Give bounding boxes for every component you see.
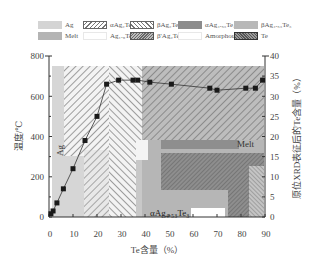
region-amorphous-white: [136, 140, 148, 160]
x-tick-20: 20: [94, 229, 104, 239]
x-tick-80: 80: [238, 229, 248, 239]
y-left-axis-title: 温度/℃: [13, 121, 24, 152]
data-point-marker: [54, 200, 59, 205]
y-right-tick-10: 10: [270, 172, 280, 182]
data-point-marker: [135, 78, 140, 83]
data-point-marker: [95, 114, 100, 119]
right-axis-labels: 0 5 10 15 20 25 30 35 40: [270, 51, 280, 222]
data-point-marker: [147, 80, 152, 85]
data-point-marker: [51, 208, 56, 213]
y-right-tick-35: 35: [270, 71, 280, 81]
x-tick-40: 40: [142, 229, 152, 239]
x-tick-0: 0: [48, 229, 53, 239]
y-right-tick-0: 0: [270, 212, 275, 222]
data-point-marker: [71, 166, 76, 171]
data-point-marker: [260, 78, 265, 83]
data-point-marker: [169, 82, 174, 87]
y-left-tick-200: 200: [31, 172, 45, 182]
data-point-marker: [131, 78, 136, 83]
region-ag19te-white: [191, 208, 225, 217]
y-right-tick-25: 25: [270, 112, 280, 122]
region-melt-band: [161, 140, 239, 149]
y-left-tick-600: 600: [31, 92, 45, 102]
data-point-marker: [215, 88, 220, 93]
x-axis-title: Te含量（%）: [131, 244, 183, 255]
y-right-tick-5: 5: [270, 192, 275, 202]
x-tick-70: 70: [214, 229, 224, 239]
data-point-marker: [253, 86, 258, 91]
y-right-tick-40: 40: [270, 51, 280, 61]
data-point-marker: [104, 82, 109, 87]
phase-diagram-chart: 0 200 400 600 800 温度/℃ 0 5 10 15 20 25 3…: [0, 0, 313, 274]
region-left-gap: [136, 160, 142, 217]
x-tick-90: 90: [262, 229, 272, 239]
data-point-marker: [207, 86, 212, 91]
data-point-marker: [83, 138, 88, 143]
y-right-tick-30: 30: [270, 92, 280, 102]
y-right-tick-15: 15: [270, 152, 280, 162]
annotation-melt: Melt: [237, 139, 254, 149]
region-te: [249, 166, 264, 217]
region-alpha-ag2te-lower: [84, 150, 109, 217]
annotation-ag: Ag: [55, 145, 65, 156]
x-tick-60: 60: [190, 229, 200, 239]
y-left-tick-0: 0: [40, 212, 45, 222]
y-left-tick-800: 800: [31, 51, 45, 61]
region-dark-lower: [228, 190, 249, 217]
region-melt-hatch: [142, 66, 264, 140]
bottom-axis-labels: 0 10 20 30 40 50 60 70 80 90: [48, 229, 271, 239]
y-right-axis-title: 原位XRD表征后的Te含量（%）: [291, 73, 302, 198]
x-tick-10: 10: [70, 229, 80, 239]
data-point-marker: [61, 186, 66, 191]
x-tick-30: 30: [118, 229, 128, 239]
data-point-marker: [116, 78, 121, 83]
x-tick-50: 50: [166, 229, 176, 239]
y-right-tick-20: 20: [270, 132, 280, 142]
annotation-alpha-ag453te3: αAg₄.₅₃Te₃: [150, 208, 189, 218]
data-point-marker: [243, 86, 248, 91]
left-axis-labels: 0 200 400 600 800: [31, 51, 45, 222]
region-alpha-ag453te3-dark: [161, 153, 264, 190]
y-left-tick-400: 400: [31, 132, 45, 142]
